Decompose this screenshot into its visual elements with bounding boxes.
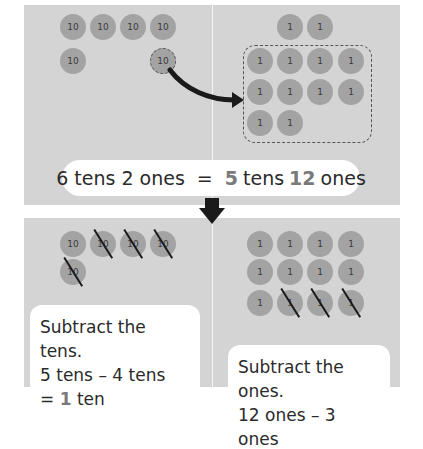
ones-counter: 1 [277, 231, 303, 257]
strike-through-mark [63, 257, 82, 287]
strike-through-mark [93, 229, 112, 259]
strike-through-mark [310, 288, 329, 318]
ones-counter: 1 [247, 231, 273, 257]
ones-counter: 1 [338, 231, 364, 257]
subtract-tens-line1: Subtract the tens. [40, 315, 190, 363]
tens-counter: 10 [60, 231, 86, 257]
ones-counter: 1 [277, 290, 303, 316]
subtract-tens-line3: = 1 ten [40, 387, 190, 411]
ones-counter: 1 [247, 259, 273, 285]
line3-suffix: ten [72, 389, 105, 409]
ones-counter: 1 [338, 259, 364, 285]
ones-counter: 1 [247, 290, 273, 316]
strike-through-mark [280, 288, 299, 318]
subtract-ones-line1: Subtract the ones. [238, 355, 380, 403]
ones-counter: 1 [277, 259, 303, 285]
subtract-ones-line2: 12 ones – 3 ones [238, 403, 380, 449]
tens-counter: 10 [60, 259, 86, 285]
subtract-ones-textbox: Subtract the ones. 12 ones – 3 ones [228, 345, 390, 387]
line3-prefix: = [40, 389, 60, 409]
subtract-tens-textbox: Subtract the tens. 5 tens – 4 tens = 1 t… [30, 305, 200, 387]
tens-counter: 10 [90, 231, 116, 257]
line3-value: 1 [60, 389, 72, 409]
subtract-tens-line2: 5 tens – 4 tens [40, 363, 190, 387]
ones-counter: 1 [338, 290, 364, 316]
ones-counter: 1 [307, 290, 333, 316]
tens-counter: 10 [120, 231, 146, 257]
strike-through-mark [153, 229, 172, 259]
ones-counter: 1 [307, 259, 333, 285]
tens-counter: 10 [150, 231, 176, 257]
strike-through-mark [341, 288, 360, 318]
ones-counter: 1 [307, 231, 333, 257]
strike-through-mark [123, 229, 142, 259]
